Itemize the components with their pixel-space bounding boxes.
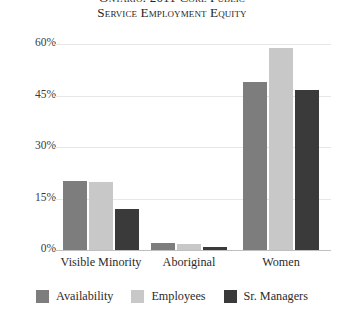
legend-swatch-icon: [36, 290, 49, 303]
x-axis-category-label: Women: [221, 255, 341, 270]
y-axis-tick-label: 15%: [0, 191, 56, 203]
bar[interactable]: [295, 90, 319, 250]
legend-swatch-icon: [131, 290, 144, 303]
bar[interactable]: [89, 182, 113, 250]
chart-title: Ontario: 2011 Core Public Service Employ…: [0, 0, 344, 20]
legend-swatch-icon: [224, 290, 237, 303]
bar[interactable]: [177, 244, 201, 250]
bar[interactable]: [269, 48, 293, 250]
bar[interactable]: [203, 247, 227, 250]
y-axis-tick-label: 0%: [0, 242, 56, 254]
bar-group: [63, 44, 139, 250]
bar[interactable]: [243, 82, 267, 250]
legend-item[interactable]: Employees: [131, 289, 205, 304]
y-axis-tick-label: 45%: [0, 88, 56, 100]
legend-item[interactable]: Sr. Managers: [224, 289, 308, 304]
bar[interactable]: [115, 209, 139, 250]
y-axis-tick-label: 60%: [0, 36, 56, 48]
chart-title-line-2: Service Employment Equity: [0, 5, 344, 20]
x-axis-baseline: [55, 250, 331, 251]
legend-item-label: Sr. Managers: [244, 289, 308, 304]
chart-legend: AvailabilityEmployeesSr. Managers: [0, 286, 344, 306]
y-axis-tick-label: 30%: [0, 139, 56, 151]
plot-area: [55, 44, 331, 251]
bar-group: [151, 44, 227, 250]
legend-item-label: Availability: [56, 289, 113, 304]
employment-equity-chart: Ontario: 2011 Core Public Service Employ…: [0, 0, 344, 314]
bar[interactable]: [151, 243, 175, 250]
legend-item[interactable]: Availability: [36, 289, 113, 304]
bar[interactable]: [63, 181, 87, 250]
legend-item-label: Employees: [151, 289, 205, 304]
bar-group: [243, 44, 319, 250]
